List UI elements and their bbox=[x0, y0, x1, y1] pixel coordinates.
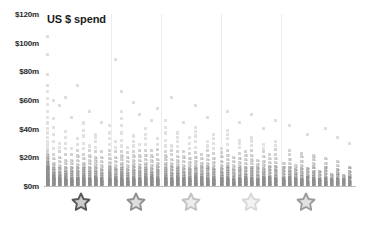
data-point bbox=[176, 136, 179, 139]
data-point bbox=[226, 143, 229, 146]
data-point bbox=[184, 175, 186, 177]
data-point bbox=[116, 161, 118, 163]
data-point bbox=[78, 170, 80, 172]
data-point bbox=[176, 145, 179, 148]
data-point bbox=[206, 149, 209, 152]
data-point bbox=[132, 140, 135, 143]
data-point bbox=[288, 124, 291, 127]
data-point bbox=[152, 175, 154, 177]
data-point bbox=[228, 162, 230, 164]
data-point bbox=[52, 133, 55, 136]
data-point bbox=[350, 171, 352, 173]
data-point bbox=[110, 162, 112, 164]
data-point bbox=[228, 175, 230, 177]
data-point bbox=[138, 149, 141, 152]
data-point bbox=[202, 181, 204, 183]
data-point bbox=[46, 35, 49, 38]
data-point bbox=[70, 153, 73, 156]
y-tick-label: $80m bbox=[19, 67, 39, 76]
data-point bbox=[246, 159, 248, 161]
data-point bbox=[152, 160, 154, 162]
data-point bbox=[288, 149, 291, 152]
data-point bbox=[82, 142, 85, 145]
data-point bbox=[128, 174, 130, 176]
data-point bbox=[96, 157, 98, 159]
data-point bbox=[176, 131, 179, 134]
data-point bbox=[276, 176, 278, 178]
data-point bbox=[140, 164, 142, 166]
data-point bbox=[72, 167, 74, 169]
data-point bbox=[202, 172, 204, 174]
data-point bbox=[84, 167, 86, 169]
data-point bbox=[206, 116, 209, 119]
data-point bbox=[184, 156, 186, 158]
data-point bbox=[208, 178, 210, 180]
data-point bbox=[258, 178, 260, 180]
data-point bbox=[120, 117, 123, 120]
data-point bbox=[64, 130, 67, 133]
data-point bbox=[176, 140, 179, 143]
data-point bbox=[46, 131, 49, 134]
data-point bbox=[252, 155, 254, 157]
data-point bbox=[194, 146, 197, 149]
data-point bbox=[110, 170, 112, 172]
data-point bbox=[326, 158, 328, 160]
data-point bbox=[296, 175, 298, 177]
data-point bbox=[296, 165, 298, 167]
data-point bbox=[76, 84, 79, 87]
data-point bbox=[94, 146, 97, 149]
data-point bbox=[284, 180, 286, 182]
data-point bbox=[320, 171, 322, 173]
data-point bbox=[246, 177, 248, 179]
data-point bbox=[296, 169, 298, 171]
data-point bbox=[164, 119, 167, 122]
data-point bbox=[140, 160, 142, 162]
data-point bbox=[84, 172, 86, 174]
data-point bbox=[78, 167, 80, 169]
data-point bbox=[78, 172, 80, 174]
data-point bbox=[152, 164, 154, 166]
data-point bbox=[64, 136, 67, 139]
data-point bbox=[184, 171, 186, 173]
data-point bbox=[222, 161, 224, 163]
data-point bbox=[284, 166, 286, 168]
data-point bbox=[306, 133, 309, 136]
data-point bbox=[178, 160, 180, 162]
data-point bbox=[134, 160, 136, 162]
data-point bbox=[152, 155, 154, 157]
data-point bbox=[64, 142, 67, 145]
data-point bbox=[258, 176, 260, 178]
data-point bbox=[156, 153, 159, 156]
data-point bbox=[308, 174, 310, 176]
data-point bbox=[46, 121, 49, 124]
data-point bbox=[182, 121, 185, 124]
data-point bbox=[78, 174, 80, 176]
data-point bbox=[164, 126, 167, 129]
data-point bbox=[240, 157, 242, 159]
data-point bbox=[252, 172, 254, 174]
data-point bbox=[246, 170, 248, 172]
data-point bbox=[134, 175, 136, 177]
data-point bbox=[250, 113, 253, 116]
data-point bbox=[150, 149, 153, 152]
data-point bbox=[196, 160, 198, 162]
data-point bbox=[338, 169, 340, 171]
data-point bbox=[172, 178, 174, 180]
data-point bbox=[252, 159, 254, 161]
data-point bbox=[228, 166, 230, 168]
data-point bbox=[338, 161, 340, 163]
data-point bbox=[90, 170, 92, 172]
data-point bbox=[170, 149, 173, 152]
data-point bbox=[202, 170, 204, 172]
data-point bbox=[96, 174, 98, 176]
data-point bbox=[228, 168, 230, 170]
star-icon bbox=[241, 192, 261, 212]
data-point bbox=[58, 146, 61, 149]
data-point bbox=[194, 134, 197, 137]
data-point bbox=[348, 142, 351, 145]
data-point bbox=[60, 157, 62, 159]
data-point bbox=[214, 161, 216, 163]
data-point bbox=[262, 147, 265, 150]
data-point bbox=[46, 127, 49, 130]
data-point bbox=[194, 151, 197, 154]
